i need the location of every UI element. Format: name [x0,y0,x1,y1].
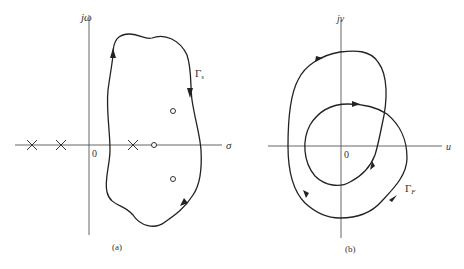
arrow-icon [180,198,188,206]
sigma-axis-label: σ [226,139,232,151]
jw-axis-label: jω [79,11,92,23]
arrow-icon [303,190,309,198]
origin-label: 0 [92,148,97,159]
contour-label: Γs [195,67,204,81]
figure-a-s-plane: jω σ 0 Γs (a) [15,11,232,252]
nyquist-diagram: jω σ 0 Γs (a) jv u 0 ΓF (b) [0,0,464,269]
arrow-icon [315,56,323,62]
arrow-icon [389,195,397,202]
arrow-icon [352,101,360,107]
jv-axis-label: jv [335,13,345,24]
zero-icon [171,109,176,114]
zero-icon [152,143,157,148]
figure-b-f-plane: jv u 0 ΓF (b) [268,13,451,254]
caption-b: (b) [345,244,356,254]
zero-icon [171,177,176,182]
origin-label: 0 [344,149,349,160]
contour-gamma-s [106,34,201,226]
caption-a: (a) [112,242,122,252]
u-axis-label: u [446,141,451,152]
arrow-up-icon [110,48,116,58]
contour-label: ΓF [405,182,416,196]
